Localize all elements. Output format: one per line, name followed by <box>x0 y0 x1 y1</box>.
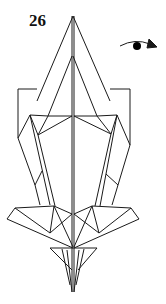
left-side-flap <box>18 89 37 138</box>
right-body <box>74 115 130 206</box>
right-wing <box>74 206 139 248</box>
left-wing <box>7 206 73 248</box>
turn-over-arrow-icon <box>120 39 157 50</box>
origami-fold-diagram <box>0 0 166 304</box>
left-body <box>18 115 72 206</box>
